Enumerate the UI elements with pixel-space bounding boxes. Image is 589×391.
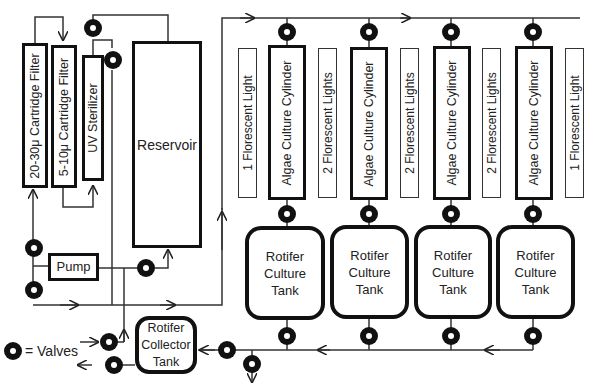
valve-icon <box>442 327 460 345</box>
collector-line2: Collector <box>139 337 193 354</box>
tank-label: Rotifer Culture Tank <box>249 248 321 299</box>
tank-line3: Tank <box>500 281 571 298</box>
rotifer-culture-tank-2: Rotifer Culture Tank <box>330 225 409 319</box>
valve-icon <box>25 239 43 257</box>
tank-label: Rotifer Culture Tank <box>334 247 405 298</box>
tank-line3: Tank <box>334 281 405 298</box>
valve-icon <box>524 327 542 345</box>
collector-label: Rotifer Collector Tank <box>139 320 193 371</box>
light-1: 1 Florescent Light <box>238 48 257 198</box>
valve-icon <box>104 51 122 69</box>
uv-label: UV Sterilizer <box>86 83 100 152</box>
legend-label: = Valves <box>25 343 78 359</box>
valve-icon <box>243 355 261 373</box>
tank-line1: Rotifer <box>500 247 571 264</box>
tank-line2: Culture <box>500 264 571 281</box>
filter-20-30-micron: 20-30μ Cartridge Filter <box>22 43 48 188</box>
valve-icon <box>105 356 123 374</box>
valve-icon <box>278 327 296 345</box>
legend-valve-icon <box>4 342 22 360</box>
tank-line2: Culture <box>418 264 488 281</box>
rotifer-culture-tank-3: Rotifer Culture Tank <box>414 225 492 319</box>
tank-line2: Culture <box>334 264 405 281</box>
valve-icon <box>278 205 296 223</box>
valve-icon <box>84 19 102 37</box>
cylinder-label: Algae Culture Cylinder <box>527 60 541 185</box>
light-2: 2 Florescent Lights <box>318 48 337 198</box>
light-5: 1 Florescent Light <box>565 48 584 198</box>
light-3: 2 Florescent Lights <box>400 48 419 198</box>
cylinder-label: Algae Culture Cylinder <box>362 61 376 186</box>
valve-icon <box>442 23 460 41</box>
valve-icon <box>442 205 460 223</box>
pump-label: Pump <box>51 259 96 275</box>
light-label: 2 Florescent Lights <box>403 72 417 173</box>
tank-line2: Culture <box>249 265 321 282</box>
tank-line3: Tank <box>249 282 321 299</box>
valve-icon <box>524 205 542 223</box>
valve-icon <box>360 205 378 223</box>
algae-cylinder-2: Algae Culture Cylinder <box>350 47 388 200</box>
tank-line1: Rotifer <box>334 247 405 264</box>
reservoir: Reservoir <box>132 41 202 248</box>
collector-line3: Tank <box>139 354 193 371</box>
light-4: 2 Florescent Lights <box>482 48 501 198</box>
rotifer-culture-tank-1: Rotifer Culture Tank <box>245 226 325 320</box>
tank-label: Rotifer Culture Tank <box>500 247 571 298</box>
light-label: 1 Florescent Light <box>241 75 255 170</box>
light-label: 2 Florescent Lights <box>485 72 499 173</box>
collector-line1: Rotifer <box>139 320 193 337</box>
pump: Pump <box>48 253 99 281</box>
tank-line1: Rotifer <box>418 247 488 264</box>
algae-cylinder-3: Algae Culture Cylinder <box>433 46 471 200</box>
rotifer-system-diagram: 20-30μ Cartridge Filter 5-10μ Cartridge … <box>0 0 589 391</box>
algae-cylinder-1: Algae Culture Cylinder <box>268 45 306 200</box>
uv-sterilizer: UV Sterilizer <box>82 55 104 181</box>
tank-line3: Tank <box>418 281 488 298</box>
filter-5-10-micron: 5-10μ Cartridge Filter <box>51 45 77 188</box>
cylinder-label: Algae Culture Cylinder <box>445 60 459 185</box>
algae-cylinder-4: Algae Culture Cylinder <box>515 46 553 200</box>
cylinder-label: Algae Culture Cylinder <box>280 60 294 185</box>
filter1-label: 20-30μ Cartridge Filter <box>28 53 42 178</box>
tank-line1: Rotifer <box>249 248 321 265</box>
light-label: 1 Florescent Light <box>568 75 582 170</box>
reservoir-label: Reservoir <box>135 137 199 153</box>
filter2-label: 5-10μ Cartridge Filter <box>57 57 71 175</box>
valve-icon <box>137 259 155 277</box>
valve-icon <box>25 281 43 299</box>
valve-icon <box>524 23 542 41</box>
tank-label: Rotifer Culture Tank <box>418 247 488 298</box>
rotifer-collector-tank: Rotifer Collector Tank <box>135 316 197 374</box>
valve-icon <box>100 333 118 351</box>
valve-icon <box>360 23 378 41</box>
valve-icon <box>360 327 378 345</box>
light-label: 2 Florescent Lights <box>321 72 335 173</box>
valve-icon <box>278 23 296 41</box>
rotifer-culture-tank-4: Rotifer Culture Tank <box>496 225 575 319</box>
valve-icon <box>218 341 236 359</box>
